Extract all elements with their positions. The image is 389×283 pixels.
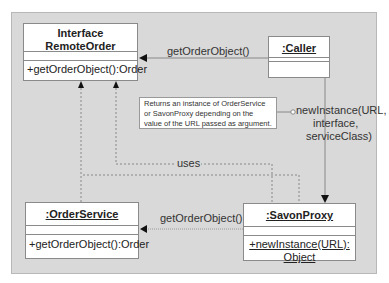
message-label: newInstance(URL, <box>296 104 387 116</box>
operations-section <box>269 61 329 62</box>
note: Returns an instance of OrderService or S… <box>139 97 277 129</box>
message-label: interface, <box>313 117 358 129</box>
class-order-service: :OrderService +getOrderObject():Order <box>25 202 139 259</box>
operation: +getOrderObject():Order <box>26 234 138 253</box>
stereotype-label: Interface <box>24 27 137 40</box>
attributes-section <box>26 225 138 234</box>
operation-line: +newInstance(URL): <box>247 238 352 251</box>
operation: +newInstance(URL): Object <box>244 235 355 266</box>
message-label: getOrderObject() <box>167 45 250 57</box>
class-remote-order: Interface RemoteOrder +getOrderObject():… <box>23 23 138 81</box>
operation: +getOrderObject():Order <box>24 60 137 78</box>
uses-label: uses <box>176 157 201 169</box>
message-label: serviceClass) <box>306 130 372 142</box>
message-label: getOrderObject() <box>160 212 243 224</box>
attributes-section <box>244 226 355 235</box>
class-savon-proxy: :SavonProxy +newInstance(URL): Object <box>243 203 356 261</box>
operation-line: Object <box>247 251 352 264</box>
class-name: :SavonProxy <box>244 204 355 226</box>
class-name: :OrderService <box>26 203 138 225</box>
class-name: :Caller <box>269 37 329 57</box>
class-caller: :Caller <box>268 36 330 78</box>
